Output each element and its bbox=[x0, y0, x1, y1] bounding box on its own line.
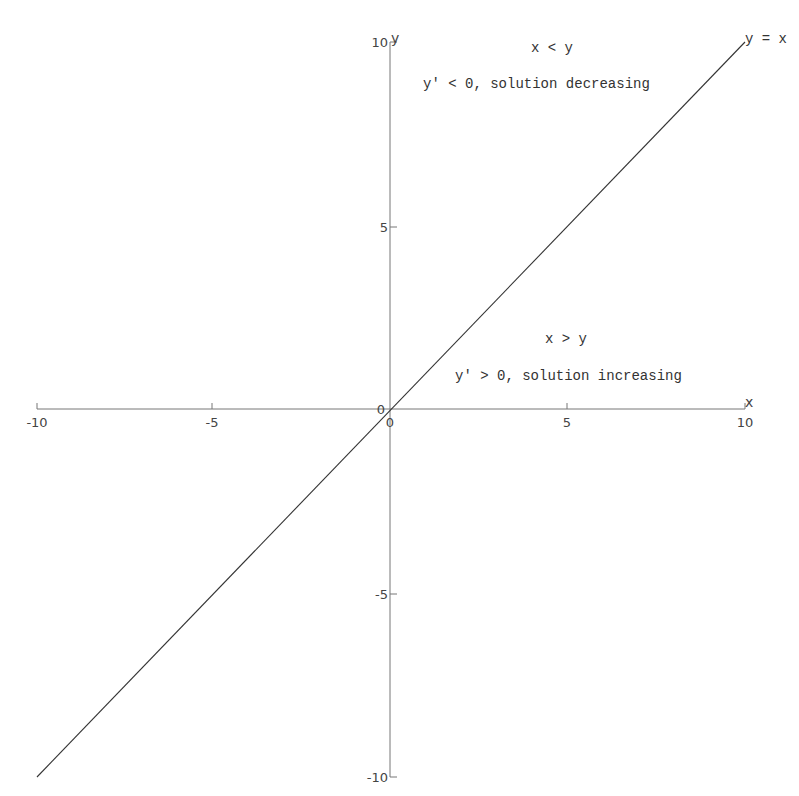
y-tick-label: 10 bbox=[371, 35, 388, 50]
region-upper-desc: y' < 0, solution decreasing bbox=[423, 76, 650, 92]
x-tick-label: -10 bbox=[26, 415, 47, 430]
x-tick-label: 10 bbox=[737, 415, 754, 430]
x-axis-name: x bbox=[745, 394, 753, 410]
x-tick-label: 0 bbox=[386, 415, 394, 430]
region-upper-title: x < y bbox=[531, 40, 573, 56]
region-lower-desc: y' > 0, solution increasing bbox=[455, 368, 682, 384]
y-axis-name: y bbox=[391, 30, 399, 46]
line-label: y = x bbox=[745, 31, 787, 47]
direction-plot: -10 -5 0 5 10 10 5 0 -5 -10 x y x < y y'… bbox=[0, 0, 799, 796]
region-lower-title: x > y bbox=[545, 331, 587, 347]
x-tick-label: -5 bbox=[206, 415, 219, 430]
y-tick-label: -5 bbox=[375, 587, 388, 602]
x-tick-label: 5 bbox=[563, 415, 571, 430]
y-tick-label: -10 bbox=[367, 770, 388, 785]
y-tick-label: 5 bbox=[380, 220, 388, 235]
x-ticks bbox=[37, 403, 745, 409]
y-tick-label: 0 bbox=[377, 402, 385, 417]
